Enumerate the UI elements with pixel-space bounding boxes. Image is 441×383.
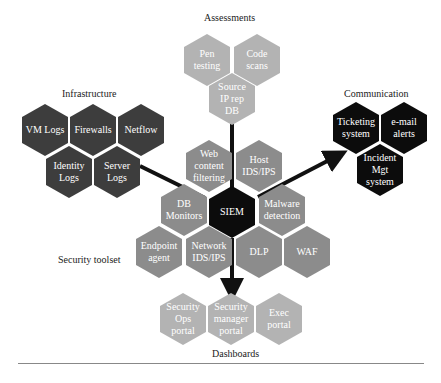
siem-diagram: Assessments Pen testing Code scans Sourc…: [0, 0, 441, 383]
group-label-infrastructure: Infrastructure: [62, 88, 116, 99]
group-label-communication: Communication: [344, 88, 408, 99]
group-label-assessments: Assessments: [204, 12, 255, 23]
group-label-dashboards: Dashboards: [212, 348, 259, 359]
bottom-divider: [18, 363, 424, 364]
group-label-security-toolset: Security toolset: [58, 254, 121, 265]
